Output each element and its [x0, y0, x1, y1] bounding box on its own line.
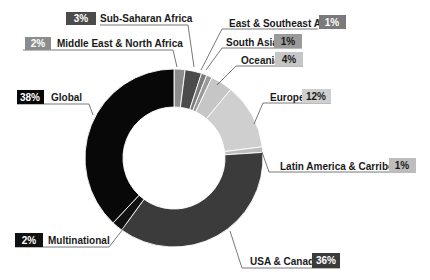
region-name: Oceania	[241, 55, 280, 66]
region-name: South Asia	[226, 37, 278, 48]
pct-text: 1%	[395, 160, 410, 171]
pct-text: 1%	[325, 17, 340, 28]
label-multinational: 2% Multinational	[15, 233, 110, 247]
label-oceania: Oceania 4%	[241, 52, 303, 66]
slice-global	[85, 69, 174, 223]
pct-text: 2%	[22, 235, 37, 246]
pct-text: 3%	[74, 13, 89, 24]
region-name: USA & Canada	[250, 256, 320, 267]
label-east-southeast-asia: East & Southeast Asia 1%	[229, 15, 346, 29]
pct-text: 4%	[282, 54, 297, 65]
pct-text: 38%	[20, 92, 40, 103]
region-name: Latin America & Carribean	[280, 161, 405, 172]
label-middle-east-north-africa: 2% Middle East & North Africa	[25, 37, 183, 50]
label-europe: Europe 12%	[270, 89, 331, 103]
label-south-asia: South Asia 1%	[226, 34, 302, 48]
label-latin-america-carribean: Latin America & Carribean 1%	[280, 158, 416, 172]
region-name: Europe	[270, 92, 305, 103]
donut-slices	[85, 69, 263, 247]
pct-text: 1%	[281, 36, 296, 47]
pct-text: 12%	[306, 91, 326, 102]
label-sub-saharan-africa: 3% Sub-Saharan Africa	[66, 12, 193, 25]
region-name: Middle East & North Africa	[57, 38, 183, 49]
region-name: Sub-Saharan Africa	[100, 13, 193, 24]
region-name: Global	[51, 92, 82, 103]
region-name: Multinational	[48, 235, 110, 246]
donut-chart: 3% Sub-Saharan Africa 2% Middle East & N…	[0, 0, 430, 280]
pct-text: 2%	[31, 38, 46, 49]
label-global: 38% Global	[17, 90, 82, 104]
pct-text: 36%	[316, 255, 336, 266]
label-usa-canada: USA & Canada 36%	[250, 253, 340, 268]
